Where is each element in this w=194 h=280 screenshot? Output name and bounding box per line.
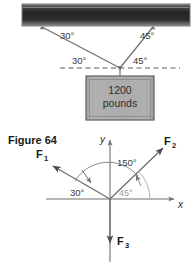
angle-label-30: 30°: [70, 187, 85, 198]
vector-label-f3-letter: F: [117, 235, 124, 247]
vector-diagram: x y 150° 30° 45° F 1: [36, 134, 184, 262]
vector-label-f1-letter: F: [36, 148, 43, 160]
figure-64-illustration: 30° 45° 30° 45° 1200 pounds Figure 64 x …: [0, 0, 194, 280]
vector-label-f1-subscript: 1: [44, 154, 48, 163]
vector-label-f3: F 3: [117, 235, 129, 250]
angle-30-leader: [82, 170, 91, 183]
vector-label-f1: F 1: [36, 148, 48, 163]
load-box-value: 1200: [108, 84, 132, 96]
angle-label-right-upper: 45°: [140, 30, 155, 41]
figure-svg-canvas: 30° 45° 30° 45° 1200 pounds Figure 64 x …: [0, 0, 194, 280]
angle-label-left-upper: 30°: [60, 30, 75, 41]
y-axis-label: y: [99, 134, 106, 145]
figure-caption: Figure 64: [8, 134, 58, 146]
vector-label-f2-subscript: 2: [172, 141, 176, 150]
angle-label-left-lower: 30°: [72, 55, 87, 66]
angle-label-150: 150°: [117, 157, 137, 168]
angle-label-right-lower: 45°: [133, 55, 148, 66]
vector-f2-arrow: [110, 148, 163, 199]
angle-arc-45: [138, 171, 150, 199]
ceiling-beam: [22, 4, 190, 26]
load-box-unit: pounds: [103, 97, 137, 109]
angle-label-45: 45°: [119, 188, 133, 198]
vector-label-f3-subscript: 3: [125, 241, 129, 250]
angle-45-leader: [136, 175, 141, 186]
x-axis-label: x: [177, 199, 184, 210]
vector-label-f2: F 2: [164, 135, 176, 150]
vector-label-f2-letter: F: [164, 135, 171, 147]
